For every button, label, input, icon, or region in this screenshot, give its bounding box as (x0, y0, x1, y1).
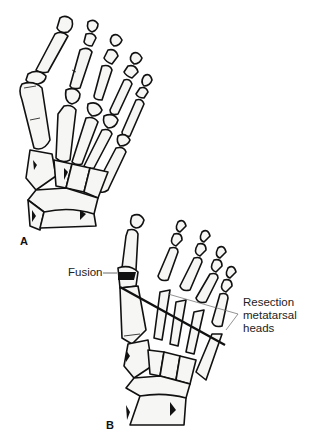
fusion-label: Fusion (68, 266, 103, 279)
foot-diagram (0, 0, 310, 443)
resection-label-line-2: metatarsal (243, 309, 297, 322)
panel-b-foot-skeleton (103, 215, 238, 425)
panel-b-great-toe (118, 215, 146, 344)
panel-a-foot-skeleton (20, 16, 152, 230)
resection-label-line-1: Resection (243, 296, 297, 309)
resection-label-line-3: heads (243, 322, 297, 335)
panel-a-label: A (20, 235, 28, 247)
resection-label: Resection metatarsal heads (243, 296, 297, 335)
panel-b-tarsals (124, 340, 196, 425)
panel-b-label: B (106, 419, 114, 431)
